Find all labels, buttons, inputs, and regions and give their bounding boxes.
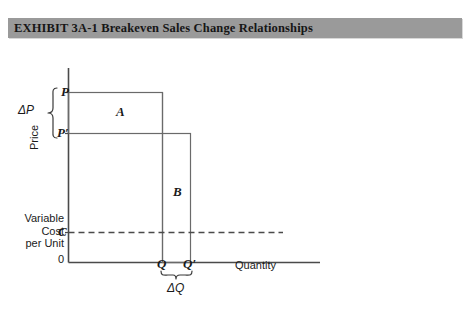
delta-p-label: ΔP [18, 103, 34, 117]
origin-label: 0 [58, 253, 64, 265]
x-axis-label: Quantity [235, 259, 276, 271]
cost-label: C [58, 224, 67, 240]
price-label: P [61, 84, 69, 100]
quantity-label: Q [157, 256, 166, 272]
region-b-label: B [173, 184, 182, 200]
delta-q-label: ΔQ [167, 281, 184, 295]
breakeven-diagram: Price Quantity Variable Cost per Unit P … [0, 38, 476, 311]
variable-cost-label-line-2: Cost [8, 225, 64, 238]
variable-cost-label-line-3: per Unit [8, 237, 64, 250]
exhibit-title: EXHIBIT 3A-1 Breakeven Sales Change Rela… [14, 19, 313, 37]
price-prime-label: P′ [57, 125, 69, 141]
delta-q-brace [161, 271, 192, 279]
delta-p-brace [48, 88, 57, 138]
y-axis-label: Price [28, 125, 40, 150]
exhibit-page: EXHIBIT 3A-1 Breakeven Sales Change Rela… [0, 0, 476, 311]
quantity-prime-label: Q′ [183, 256, 196, 272]
variable-cost-label: Variable Cost per Unit [8, 212, 64, 250]
variable-cost-label-line-1: Variable [8, 212, 64, 225]
region-a-label: A [116, 104, 125, 120]
